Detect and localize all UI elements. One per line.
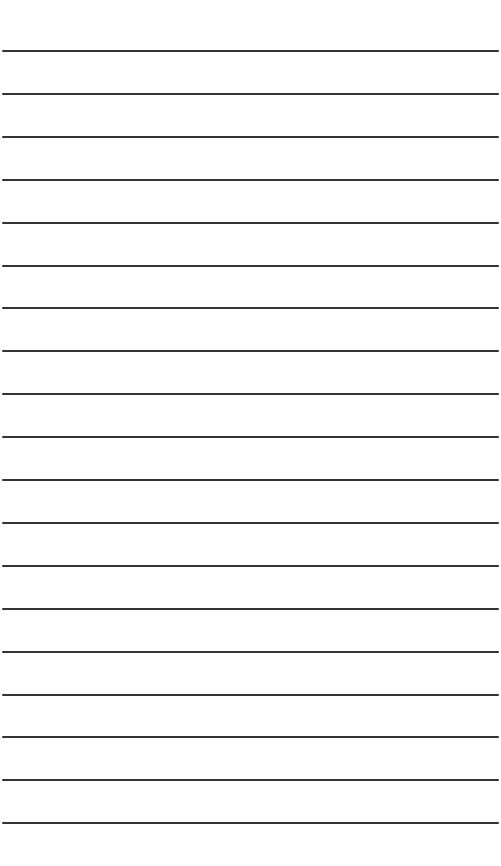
ruled-line (2, 608, 499, 610)
ruled-line (2, 651, 499, 653)
ruled-line (2, 694, 499, 696)
ruled-line (2, 522, 499, 524)
ruled-line (2, 779, 499, 781)
ruled-line (2, 436, 499, 438)
ruled-line (2, 50, 499, 52)
lined-paper-page (0, 0, 501, 866)
ruled-line (2, 479, 499, 481)
ruled-line (2, 179, 499, 181)
ruled-line (2, 393, 499, 395)
ruled-line (2, 565, 499, 567)
ruled-line (2, 136, 499, 138)
ruled-line (2, 265, 499, 267)
ruled-line (2, 222, 499, 224)
ruled-line (2, 822, 499, 824)
ruled-line (2, 307, 499, 309)
ruled-line (2, 350, 499, 352)
ruled-line (2, 736, 499, 738)
ruled-line (2, 93, 499, 95)
